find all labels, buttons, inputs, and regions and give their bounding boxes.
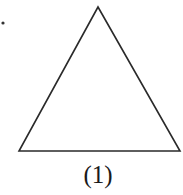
figure-caption: (1) xyxy=(0,161,183,189)
stray-dot xyxy=(1,21,4,24)
triangle xyxy=(19,7,180,151)
